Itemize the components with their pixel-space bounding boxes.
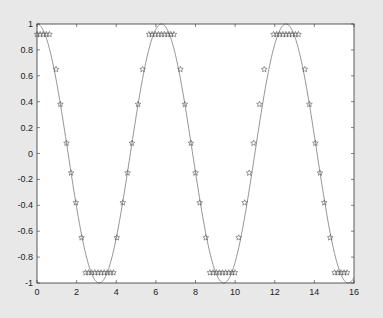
- y-tick-label: 0.2: [20, 123, 33, 133]
- y-tick-label: -0.2: [17, 174, 33, 184]
- x-tick-label: 12: [270, 287, 280, 297]
- y-tick-label: -0.4: [17, 200, 33, 210]
- x-tick-label: 4: [114, 287, 119, 297]
- y-tick-label: -0.8: [17, 252, 33, 262]
- y-tick-label: -1: [25, 278, 33, 288]
- y-tick-label: 0.6: [20, 71, 33, 81]
- x-tick-label: 14: [309, 287, 319, 297]
- x-tick-label: 2: [74, 287, 79, 297]
- y-tick-label: 0: [28, 149, 33, 159]
- y-tick-label: 0.8: [20, 45, 33, 55]
- x-tick-label: 6: [153, 287, 158, 297]
- plot-area: [37, 24, 354, 283]
- chart: 0246810121416-1-0.8-0.6-0.4-0.200.20.40.…: [0, 0, 383, 318]
- y-tick-label: 1: [28, 19, 33, 29]
- x-tick-label: 8: [193, 287, 198, 297]
- x-tick-label: 0: [34, 287, 39, 297]
- y-tick-label: -0.6: [17, 226, 33, 236]
- x-tick-label: 16: [349, 287, 359, 297]
- y-tick-label: 0.4: [20, 97, 33, 107]
- x-tick-label: 10: [230, 287, 240, 297]
